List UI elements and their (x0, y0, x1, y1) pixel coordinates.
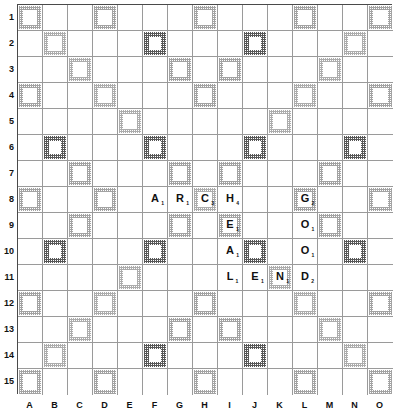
board-square-j2[interactable] (243, 31, 268, 57)
board-square-b5[interactable] (43, 109, 68, 135)
board-square-g5[interactable] (168, 109, 193, 135)
board-square-c5[interactable] (68, 109, 93, 135)
board-square-h5[interactable] (193, 109, 218, 135)
board-square-n6[interactable] (343, 135, 368, 161)
board-square-k4[interactable] (268, 83, 293, 109)
board-square-a5[interactable] (18, 109, 43, 135)
board-square-j10[interactable] (243, 239, 268, 265)
board-square-e13[interactable] (118, 317, 143, 343)
board-square-d11[interactable] (93, 265, 118, 291)
board-square-d8[interactable] (93, 187, 118, 213)
board-square-o11[interactable] (368, 265, 393, 291)
board-square-f7[interactable] (143, 161, 168, 187)
board-square-b15[interactable] (43, 369, 68, 395)
board-square-c14[interactable] (68, 343, 93, 369)
board-square-i10[interactable]: A1 (218, 239, 243, 265)
board-square-h12[interactable] (193, 291, 218, 317)
board-square-d9[interactable] (93, 213, 118, 239)
board-square-b3[interactable] (43, 57, 68, 83)
board-square-c2[interactable] (68, 31, 93, 57)
board-square-e10[interactable] (118, 239, 143, 265)
board-square-h13[interactable] (193, 317, 218, 343)
letter-tile-h8[interactable]: C3 (193, 187, 217, 212)
board-square-j4[interactable] (243, 83, 268, 109)
board-square-j8[interactable] (243, 187, 268, 213)
board-square-i3[interactable] (218, 57, 243, 83)
board-square-h9[interactable] (193, 213, 218, 239)
board-square-g12[interactable] (168, 291, 193, 317)
board-square-i2[interactable] (218, 31, 243, 57)
board-square-j3[interactable] (243, 57, 268, 83)
board-square-o5[interactable] (368, 109, 393, 135)
board-square-o8[interactable] (368, 187, 393, 213)
letter-tile-f8[interactable]: A1 (143, 187, 167, 212)
board-square-c8[interactable] (68, 187, 93, 213)
board-square-o7[interactable] (368, 161, 393, 187)
board-square-g10[interactable] (168, 239, 193, 265)
board-square-g7[interactable] (168, 161, 193, 187)
board-square-h7[interactable] (193, 161, 218, 187)
board-square-m1[interactable] (318, 5, 343, 31)
board-square-c11[interactable] (68, 265, 93, 291)
board-square-k7[interactable] (268, 161, 293, 187)
board-square-n7[interactable] (343, 161, 368, 187)
board-square-h1[interactable] (193, 5, 218, 31)
board-square-c7[interactable] (68, 161, 93, 187)
board-square-b6[interactable] (43, 135, 68, 161)
board-square-f3[interactable] (143, 57, 168, 83)
board-square-i14[interactable] (218, 343, 243, 369)
board-square-a8[interactable] (18, 187, 43, 213)
board-square-b11[interactable] (43, 265, 68, 291)
board-square-m6[interactable] (318, 135, 343, 161)
board-square-n11[interactable] (343, 265, 368, 291)
board-square-k2[interactable] (268, 31, 293, 57)
board-square-h2[interactable] (193, 31, 218, 57)
board-square-d15[interactable] (93, 369, 118, 395)
board-square-n10[interactable] (343, 239, 368, 265)
letter-tile-l11[interactable]: D2 (293, 265, 317, 290)
board-square-o1[interactable] (368, 5, 393, 31)
board-square-e5[interactable] (118, 109, 143, 135)
board-square-k12[interactable] (268, 291, 293, 317)
board-square-e2[interactable] (118, 31, 143, 57)
board-square-m3[interactable] (318, 57, 343, 83)
board-square-h6[interactable] (193, 135, 218, 161)
board-square-h3[interactable] (193, 57, 218, 83)
board-square-o3[interactable] (368, 57, 393, 83)
board-square-c6[interactable] (68, 135, 93, 161)
board-square-i8[interactable]: H4 (218, 187, 243, 213)
board-square-o15[interactable] (368, 369, 393, 395)
board-square-m7[interactable] (318, 161, 343, 187)
board-square-d5[interactable] (93, 109, 118, 135)
board-square-b10[interactable] (43, 239, 68, 265)
board-square-n12[interactable] (343, 291, 368, 317)
board-square-a7[interactable] (18, 161, 43, 187)
board-square-f4[interactable] (143, 83, 168, 109)
board-square-i15[interactable] (218, 369, 243, 395)
board-square-d13[interactable] (93, 317, 118, 343)
board-square-k13[interactable] (268, 317, 293, 343)
board-square-n2[interactable] (343, 31, 368, 57)
board-square-d14[interactable] (93, 343, 118, 369)
board-square-l1[interactable] (293, 5, 318, 31)
board-square-g1[interactable] (168, 5, 193, 31)
board-square-n1[interactable] (343, 5, 368, 31)
board-square-d3[interactable] (93, 57, 118, 83)
board-square-e14[interactable] (118, 343, 143, 369)
board-square-l6[interactable] (293, 135, 318, 161)
board-square-g8[interactable]: R1 (168, 187, 193, 213)
board-square-l3[interactable] (293, 57, 318, 83)
board-square-l5[interactable] (293, 109, 318, 135)
board-square-a9[interactable] (18, 213, 43, 239)
board-square-m15[interactable] (318, 369, 343, 395)
board-square-l13[interactable] (293, 317, 318, 343)
board-square-b12[interactable] (43, 291, 68, 317)
letter-tile-i9[interactable]: E1 (218, 213, 242, 238)
board-square-o9[interactable] (368, 213, 393, 239)
board-square-g15[interactable] (168, 369, 193, 395)
board-square-h11[interactable] (193, 265, 218, 291)
letter-tile-l10[interactable]: O1 (293, 239, 317, 264)
board-square-m13[interactable] (318, 317, 343, 343)
board-square-a3[interactable] (18, 57, 43, 83)
board-square-c3[interactable] (68, 57, 93, 83)
